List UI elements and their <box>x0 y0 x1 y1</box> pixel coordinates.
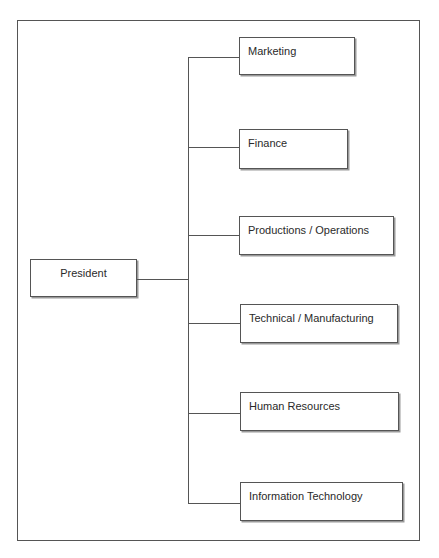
connector-branch-productions <box>188 235 239 236</box>
connector-branch-marketing <box>188 57 239 58</box>
connector-branch-finance <box>188 147 239 148</box>
node-human-resources: Human Resources <box>240 392 399 431</box>
node-marketing: Marketing <box>239 37 355 75</box>
connector-trunk <box>188 57 189 504</box>
node-label: President <box>31 267 136 280</box>
node-label: Finance <box>248 137 287 150</box>
connector-branch-hr <box>188 413 240 414</box>
node-finance: Finance <box>239 129 348 169</box>
node-label: Productions / Operations <box>248 224 369 237</box>
node-information-technology: Information Technology <box>240 482 403 521</box>
node-label: Technical / Manufacturing <box>249 312 374 325</box>
node-president: President <box>30 259 137 297</box>
connector-branch-it <box>188 503 240 504</box>
node-label: Marketing <box>248 45 296 58</box>
connector-branch-technical <box>188 323 240 324</box>
node-technical-manufacturing: Technical / Manufacturing <box>240 304 398 343</box>
node-label: Information Technology <box>249 490 363 503</box>
node-label: Human Resources <box>249 400 340 413</box>
connector-president-trunk <box>137 279 189 280</box>
node-productions-operations: Productions / Operations <box>239 216 394 255</box>
